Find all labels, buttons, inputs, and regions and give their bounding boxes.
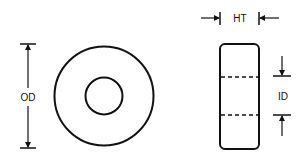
ring-side-view <box>220 44 259 149</box>
ht-label: HT <box>233 13 246 24</box>
ht-dimension: HT <box>201 12 279 25</box>
id-label: ID <box>278 91 288 102</box>
toroid-dimension-diagram: OD HT ID <box>0 0 303 159</box>
od-dimension: OD <box>20 44 36 148</box>
id-dimension: ID <box>273 56 291 136</box>
od-label: OD <box>21 92 36 103</box>
ring-front-view <box>55 47 154 146</box>
